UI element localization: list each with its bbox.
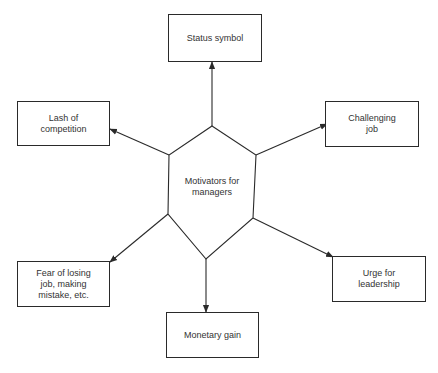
edge-challenging <box>256 124 327 155</box>
node-monetary-gain: Monetary gain <box>166 312 259 358</box>
edge-competition <box>110 129 169 155</box>
node-label: Status symbol <box>187 33 244 44</box>
edge-fear <box>110 214 168 262</box>
edge-leadership <box>253 218 333 257</box>
node-urge-for-leadership: Urge for leadership <box>332 256 426 302</box>
node-challenging-job: Challenging job <box>325 101 419 147</box>
node-label: Monetary gain <box>184 330 241 341</box>
center-label: Motivators for managers <box>170 176 254 198</box>
node-label: Fear of losing job, making mistake, etc. <box>36 268 91 301</box>
node-label: Lash of competition <box>40 113 86 135</box>
node-label: Challenging job <box>348 113 396 135</box>
node-status-symbol: Status symbol <box>168 14 262 62</box>
node-lash-of-competition: Lash of competition <box>17 101 110 146</box>
node-fear-of-losing-job: Fear of losing job, making mistake, etc. <box>17 261 110 307</box>
node-label: Urge for leadership <box>358 268 400 290</box>
